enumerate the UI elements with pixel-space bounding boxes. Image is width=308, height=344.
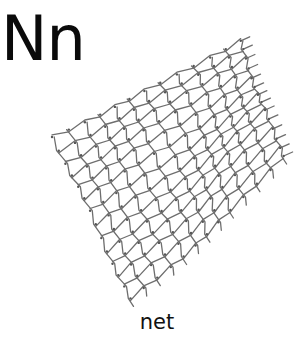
net-knot (155, 199, 157, 201)
net-knot (213, 65, 215, 67)
net-knot (242, 48, 244, 50)
net-tail (265, 106, 274, 110)
net-knot (107, 214, 109, 216)
net-knot (172, 231, 174, 233)
net-knot (83, 197, 85, 199)
net-knot (113, 228, 115, 230)
net-tail (255, 83, 264, 87)
net-knot (102, 201, 104, 203)
net-knot (229, 115, 231, 117)
net-strand-col (147, 91, 210, 242)
net-knot (253, 129, 255, 131)
net-knot (89, 134, 91, 136)
net-knot (143, 287, 145, 289)
net-knot (114, 106, 116, 108)
net-knot (152, 231, 154, 233)
net-knot (197, 74, 199, 76)
net-knot (175, 199, 177, 201)
alphabet-flashcard: Nn net (0, 0, 308, 344)
net-knot (221, 186, 223, 188)
net-knot (193, 157, 195, 159)
net-knot (146, 220, 148, 222)
net-knot (163, 131, 165, 133)
net-knot (199, 125, 201, 127)
net-knot (194, 244, 196, 246)
net-knot (169, 144, 171, 146)
net-knot (164, 91, 166, 93)
net-knot (134, 196, 136, 198)
net-knot (198, 167, 200, 169)
net-knot (106, 250, 108, 252)
net-tail (249, 65, 258, 69)
net-knot (249, 120, 251, 122)
net-knot (245, 57, 247, 59)
net-knot (181, 82, 183, 84)
net-knot (153, 110, 155, 112)
net-knot (272, 128, 274, 130)
net-strand-row (131, 158, 284, 300)
net-knot (189, 146, 191, 148)
net-knot (223, 144, 225, 146)
net-knot (207, 146, 209, 148)
net-knot (260, 101, 262, 103)
net-knot (133, 109, 135, 111)
net-knot (202, 221, 204, 223)
net-knot (158, 165, 160, 167)
net-knot (205, 93, 207, 95)
net-knot (74, 142, 76, 144)
net-knot (189, 188, 191, 190)
net-knot (226, 106, 228, 108)
net-knot (179, 123, 181, 125)
net-knot (130, 263, 132, 265)
net-knot (64, 163, 66, 165)
net-knot (269, 169, 271, 171)
net-knot (153, 153, 155, 155)
net-knot (176, 73, 178, 75)
net-knot (91, 176, 93, 178)
net-knot (77, 186, 79, 188)
net-knot (253, 86, 255, 88)
net-knot (216, 74, 218, 76)
net-knot (243, 151, 245, 153)
net-tail (284, 152, 293, 156)
net-knot (132, 231, 134, 233)
net-knot (129, 297, 131, 299)
net-knot (264, 109, 266, 111)
net-knot (174, 111, 176, 113)
net-strand-row (101, 108, 265, 236)
net-knot (250, 77, 252, 79)
net-knot (261, 150, 263, 152)
net-knot (137, 119, 139, 121)
net-knot (228, 56, 230, 58)
net-knot (185, 92, 187, 94)
net-knot (159, 82, 161, 84)
net-knot (143, 174, 145, 176)
net-knot (149, 187, 151, 189)
net-knot (243, 105, 245, 107)
net-knot (218, 175, 220, 177)
net-tail (277, 135, 286, 139)
net-knot (97, 188, 99, 190)
net-knot (150, 264, 152, 266)
net-knot (144, 253, 146, 255)
net-knot (174, 156, 176, 158)
net-knot (182, 255, 184, 257)
net-knot (118, 117, 120, 119)
net-tail (269, 115, 278, 119)
net-knot (197, 209, 199, 211)
net-strand-row (65, 56, 246, 161)
net-knot (84, 121, 86, 123)
net-tail (261, 98, 270, 102)
net-knot (282, 155, 284, 157)
net-knot (246, 112, 248, 114)
net-knot (100, 156, 102, 158)
net-knot (185, 220, 187, 222)
net-knot (201, 83, 203, 85)
net-tail (280, 144, 289, 148)
net-knot (105, 167, 107, 169)
net-knot (232, 124, 234, 126)
net-knot (109, 137, 111, 139)
net-knot (213, 116, 215, 118)
net-knot (119, 158, 121, 160)
net-knot (275, 138, 277, 140)
